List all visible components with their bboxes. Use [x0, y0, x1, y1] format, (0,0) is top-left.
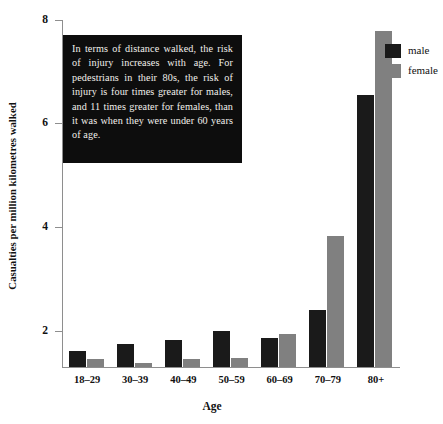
bar-male-70–79: [309, 310, 326, 367]
bar-female-50–59: [231, 358, 248, 367]
x-tick-label-40–49: 40–49: [170, 374, 196, 385]
bar-female-30–39: [135, 363, 152, 367]
legend-label-female: female: [408, 64, 438, 76]
x-axis-title: Age: [202, 400, 221, 413]
x-tick-label-80+: 80+: [368, 374, 385, 385]
bar-male-18–29: [69, 351, 86, 367]
bar-male-40–49: [165, 340, 182, 367]
x-tick-label-60–69: 60–69: [266, 374, 292, 385]
x-tick-label-70–79: 70–79: [315, 374, 341, 385]
legend-label-male: male: [408, 44, 429, 56]
y-axis-title: Casualties per million kilometres walked: [6, 102, 18, 289]
x-tick-label-50–59: 50–59: [218, 374, 244, 385]
x-tick-label-30–39: 30–39: [122, 374, 148, 385]
callout-note: In terms of distance walked, the risk of…: [63, 35, 242, 163]
bar-female-70–79: [327, 236, 344, 367]
bar-female-60–69: [279, 334, 296, 367]
x-tick-label-18–29: 18–29: [74, 374, 100, 385]
y-axis: 8 6 4 2: [42, 13, 62, 367]
bar-female-18–29: [87, 359, 104, 367]
legend-swatch-female: [385, 64, 401, 78]
y-tick-label-6: 6: [42, 116, 48, 128]
bar-female-40–49: [183, 359, 200, 367]
bar-male-80+: [357, 95, 374, 367]
bar-male-50–59: [213, 331, 230, 367]
figure-container: Casualties per million kilometres walked…: [0, 0, 443, 424]
legend: male female: [385, 44, 438, 78]
y-tick-label-8: 8: [42, 13, 48, 25]
y-tick-label-4: 4: [42, 220, 48, 232]
bar-male-60–69: [261, 338, 278, 368]
legend-swatch-male: [385, 44, 401, 58]
callout-note-text: In terms of distance walked, the risk of…: [72, 42, 233, 143]
bar-male-30–39: [117, 344, 134, 367]
y-tick-label-2: 2: [42, 324, 48, 336]
y-axis-title-group: Casualties per million kilometres walked: [6, 102, 18, 289]
category-labels-layer: 18–2930–3940–4950–5960–6970–7980+: [74, 374, 384, 385]
bar-female-80+: [375, 31, 392, 367]
